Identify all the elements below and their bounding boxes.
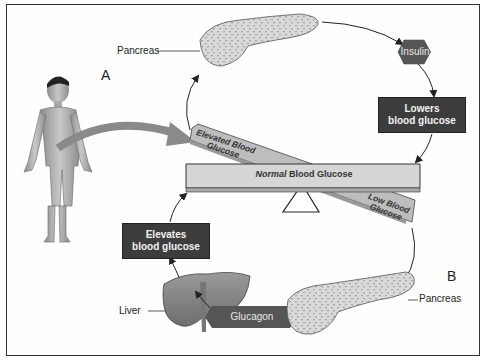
insulin-label: Insulin	[398, 46, 432, 57]
lowers-line1: Lowers	[379, 103, 465, 115]
pancreas-top-icon	[200, 14, 318, 66]
normal-glucose-label: Normal Blood Glucose	[244, 170, 364, 179]
panel-label-a: A	[101, 67, 110, 83]
pancreas-bottom-icon	[287, 272, 414, 334]
pancreas-top-label: Pancreas	[117, 45, 159, 56]
pancreas-bottom-label: Pancreas	[419, 293, 461, 304]
glucagon-label: Glucagon	[210, 311, 294, 322]
elevates-glucose-box: Elevates blood glucose	[122, 223, 210, 259]
lowers-line2: blood glucose	[379, 115, 465, 127]
elevates-line1: Elevates	[123, 229, 209, 241]
panel-label-b: B	[447, 268, 456, 284]
liver-label: Liver	[119, 305, 141, 316]
lowers-glucose-box: Lowers blood glucose	[378, 97, 466, 133]
human-figure-icon	[24, 76, 92, 242]
elevates-line2: blood glucose	[123, 241, 209, 253]
